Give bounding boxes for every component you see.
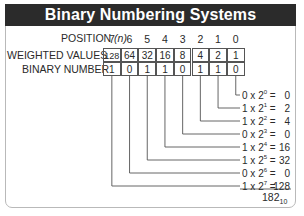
total-sum: 18210 bbox=[262, 191, 287, 205]
exponent: 0 bbox=[264, 89, 267, 95]
total-value: 182 bbox=[262, 191, 280, 203]
bit: 1 bbox=[242, 155, 248, 166]
bit: 0 bbox=[242, 90, 248, 101]
exponent: 4 bbox=[264, 141, 267, 147]
result-value: 0 bbox=[268, 168, 290, 179]
exponent: 5 bbox=[264, 154, 267, 160]
base: 2 bbox=[258, 90, 264, 101]
exponent: 3 bbox=[264, 128, 267, 134]
bit: 1 bbox=[242, 181, 248, 192]
exponent: 1 bbox=[264, 102, 267, 108]
base: 2 bbox=[258, 155, 264, 166]
result-value: 2 bbox=[268, 103, 290, 114]
base: 2 bbox=[258, 168, 264, 179]
result-value: 4 bbox=[268, 116, 290, 127]
bit: 1 bbox=[242, 103, 248, 114]
result-value: 16 bbox=[268, 142, 290, 153]
result-value: 0 bbox=[268, 129, 290, 140]
exponent: 2 bbox=[264, 115, 267, 121]
base: 2 bbox=[258, 103, 264, 114]
exponent: 6 bbox=[264, 167, 267, 173]
result-value: 32 bbox=[268, 155, 290, 166]
bit: 1 bbox=[242, 142, 248, 153]
bit: 1 bbox=[242, 116, 248, 127]
base: 2 bbox=[258, 116, 264, 127]
base: 2 bbox=[258, 129, 264, 140]
exponent: 7 bbox=[264, 180, 267, 186]
base: 2 bbox=[258, 142, 264, 153]
result-value: 0 bbox=[268, 90, 290, 101]
bit: 0 bbox=[242, 168, 248, 179]
total-base: 10 bbox=[280, 198, 288, 205]
bit: 0 bbox=[242, 129, 248, 140]
